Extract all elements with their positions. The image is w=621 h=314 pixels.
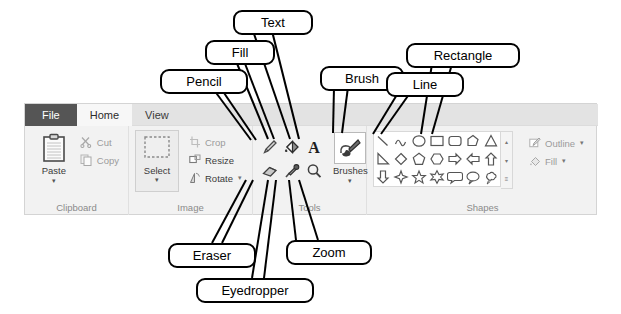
callout-zoom: Zoom	[286, 240, 372, 265]
copy-button[interactable]: Copy	[77, 151, 122, 169]
shapes-scrollbar[interactable]: ▴ ▾ ≡	[501, 131, 513, 189]
shape-six-point-star[interactable]	[428, 168, 446, 186]
shapes-gallery[interactable]	[373, 131, 501, 187]
brushes-label: Brushes	[333, 165, 368, 176]
tools-grid: A	[259, 130, 325, 183]
cut-button[interactable]: Cut	[77, 133, 122, 151]
shape-rounded-rectangle[interactable]	[446, 132, 464, 150]
crop-label: Crop	[205, 137, 226, 148]
shape-cloud-callout[interactable]	[482, 168, 500, 186]
shape-style-commands: Outline ▾ Fill ▾	[525, 131, 587, 170]
crop-icon	[188, 136, 201, 149]
tool-text[interactable]: A	[305, 138, 323, 156]
select-label: Select	[144, 165, 170, 176]
scissors-icon	[80, 136, 93, 149]
copy-icon	[80, 154, 93, 167]
callout-pencil: Pencil	[160, 69, 248, 94]
callout-rectangle: Rectangle	[406, 43, 520, 68]
group-image: Select ▾ Crop	[129, 126, 253, 215]
selection-rect-icon	[142, 135, 172, 163]
shape-rectangle[interactable]	[428, 132, 446, 150]
group-label-clipboard: Clipboard	[25, 200, 128, 215]
tab-view[interactable]: View	[132, 104, 182, 126]
outline-button[interactable]: Outline ▾	[525, 134, 587, 152]
shape-four-point-star[interactable]	[392, 168, 410, 186]
shape-triangle[interactable]	[482, 132, 500, 150]
ribbon-tab-strip: File Home View	[25, 104, 598, 126]
group-label-image: Image	[129, 200, 252, 215]
fill-icon	[283, 138, 301, 156]
tool-eyedropper[interactable]	[283, 162, 301, 180]
select-button[interactable]: Select ▾	[135, 130, 179, 192]
shape-line[interactable]	[374, 132, 392, 150]
shape-polygon[interactable]	[464, 132, 482, 150]
shape-right-arrow[interactable]	[446, 150, 464, 168]
brushes-caret[interactable]: ▾	[348, 177, 352, 184]
fill-label: Fill	[545, 156, 557, 167]
shape-left-arrow[interactable]	[464, 150, 482, 168]
paint-ribbon: File Home View	[24, 103, 597, 215]
group-label-shapes: Shapes	[367, 200, 598, 215]
outline-pen-icon	[528, 137, 541, 150]
tab-home[interactable]: Home	[77, 104, 132, 126]
group-label-tools: Tools	[253, 200, 366, 215]
text-icon: A	[305, 138, 323, 156]
image-commands: Crop Resize	[185, 130, 245, 187]
paste-caret[interactable]: ▾	[52, 177, 56, 184]
brushes-button[interactable]: Brushes ▾	[333, 130, 368, 184]
brush-icon	[334, 132, 366, 164]
rotate-caret[interactable]: ▾	[238, 174, 242, 182]
tool-fill[interactable]	[283, 138, 301, 156]
cut-label: Cut	[97, 137, 112, 148]
callout-text: Text	[233, 10, 313, 35]
rotate-button[interactable]: Rotate ▾	[185, 169, 245, 187]
ribbon-groups: Paste ▾	[25, 126, 598, 215]
shape-pentagon[interactable]	[410, 150, 428, 168]
copy-label: Copy	[97, 155, 119, 166]
screenshot-stage: File Home View	[0, 0, 621, 314]
paste-label: Paste	[42, 165, 66, 176]
shape-diamond[interactable]	[392, 150, 410, 168]
group-tools: A	[253, 126, 367, 215]
shape-oval-callout[interactable]	[464, 168, 482, 186]
resize-button[interactable]: Resize	[185, 151, 245, 169]
fill-caret[interactable]: ▾	[562, 157, 566, 165]
fill-bucket-icon	[528, 155, 541, 168]
tab-file[interactable]: File	[25, 104, 77, 126]
shapes-more-icon[interactable]: ≡	[501, 169, 512, 188]
select-caret[interactable]: ▾	[155, 176, 159, 183]
pencil-icon	[261, 138, 279, 156]
clipboard-commands: Cut Copy	[77, 130, 122, 169]
shapes-scroll-down-icon[interactable]: ▾	[501, 151, 512, 170]
tool-eraser[interactable]	[261, 162, 279, 180]
outline-caret[interactable]: ▾	[580, 139, 584, 147]
shape-five-point-star[interactable]	[410, 168, 428, 186]
group-shapes: ▴ ▾ ≡ Outline	[367, 126, 598, 215]
outline-label: Outline	[545, 138, 575, 149]
shape-rounded-callout[interactable]	[446, 168, 464, 186]
eyedropper-icon	[283, 162, 301, 180]
shape-hexagon[interactable]	[428, 150, 446, 168]
paste-button[interactable]: Paste ▾	[31, 130, 77, 184]
magnifier-icon	[305, 162, 323, 180]
shape-right-triangle[interactable]	[374, 150, 392, 168]
shape-oval[interactable]	[410, 132, 428, 150]
eraser-icon	[261, 162, 279, 180]
callout-eraser: Eraser	[168, 243, 256, 268]
resize-icon	[188, 154, 201, 167]
shapes-scroll-up-icon[interactable]: ▴	[501, 132, 512, 151]
svg-text:A: A	[308, 139, 320, 156]
shape-curve[interactable]	[392, 132, 410, 150]
fill-button[interactable]: Fill ▾	[525, 152, 587, 170]
rotate-icon	[188, 172, 201, 185]
shape-down-arrow[interactable]	[374, 168, 392, 186]
rotate-label: Rotate	[205, 173, 233, 184]
group-clipboard: Paste ▾	[25, 126, 129, 215]
tool-pencil[interactable]	[261, 138, 279, 156]
resize-label: Resize	[205, 155, 234, 166]
shape-up-arrow[interactable]	[482, 150, 500, 168]
clipboard-icon	[41, 132, 67, 164]
tool-magnifier[interactable]	[305, 162, 323, 180]
crop-button[interactable]: Crop	[185, 133, 245, 151]
callout-line: Line	[386, 72, 464, 97]
